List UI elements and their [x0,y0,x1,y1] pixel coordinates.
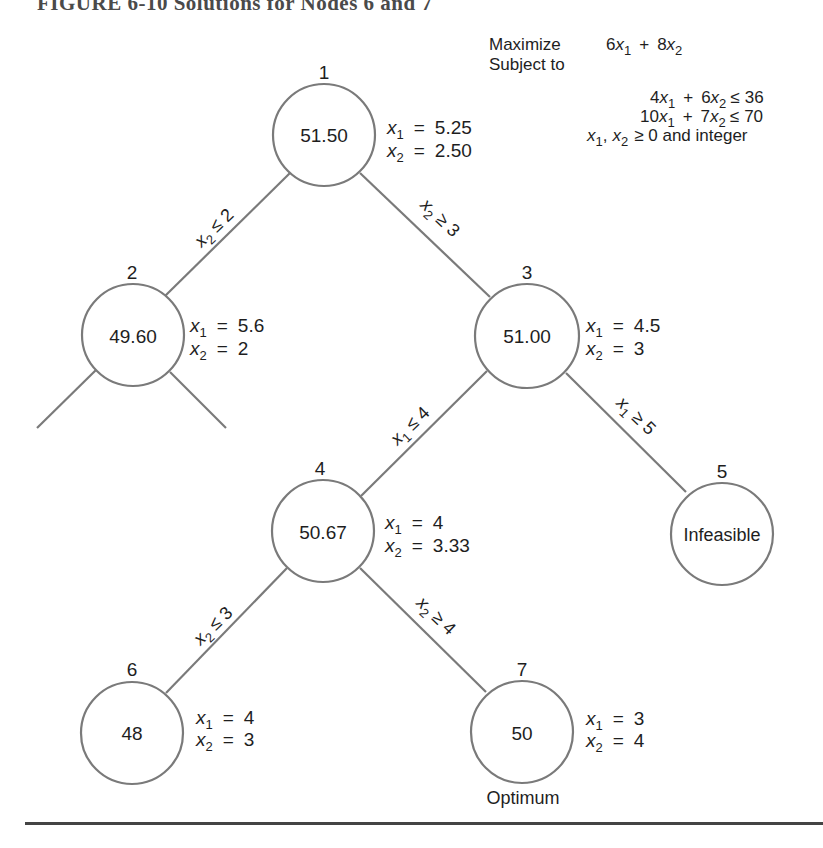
node-solution-x2: x2=2.50 [386,140,472,165]
node-4: 4 50.67 x1=4 x2=3.33 [272,458,470,582]
node-solution-x1: x1=5.6 [189,315,264,340]
node-solution-x2: x2=3.33 [384,535,470,560]
edge-label-1-3: x2≥3 [413,194,464,244]
node-solution-x2: x2=2 [189,338,248,363]
subject-to-label: Subject to [489,55,565,74]
node-id: 2 [127,262,138,283]
model-formulation: Maximize Subject to 6x1+8x2 4x1+6x2≤36 1… [489,35,764,149]
edges [37,173,686,693]
node-value: Infeasible [683,525,760,545]
node-3: 3 51.00 x1=4.5 x2=3 [475,262,660,388]
node-id: 1 [319,62,330,83]
edge-4-7 [360,568,486,692]
node-id: 6 [127,659,138,680]
node-solution-x2: x2=3 [585,338,644,363]
svg-text:x2≥3: x2≥3 [413,194,464,244]
node-7: 7 50 x1=3 x2=4 Optimum [471,659,645,808]
node-2: 2 49.60 x1=5.6 x2=2 [82,262,264,386]
node-6: 6 48 x1=4 x2=3 [81,659,255,784]
node-solution-x1: x1=5.25 [386,117,472,142]
nonnegativity-constraint: x1,x2≥ 0 and integer [586,126,748,149]
node-value: 51.50 [300,125,348,146]
node-solution-x2: x2=4 [585,730,645,755]
branch-and-bound-tree: x2≤2 x2≥3 x1≤4 x1≥5 x2≤3 x2≥4 1 51.50 x1… [0,0,823,848]
edge-label-4-7: x2≥4 [409,592,460,642]
node-1: 1 51.50 x1=5.25 x2=2.50 [273,62,472,186]
edge-2-left-stub [37,370,96,428]
node-value: 49.60 [109,326,157,347]
objective-function: 6x1+8x2 [606,35,682,58]
edge-3-4 [361,371,487,496]
node-solution-x1: x1=4.5 [585,315,660,340]
svg-text:x2≥4: x2≥4 [409,592,460,642]
node-id: 4 [315,458,326,479]
edge-3-5 [566,373,686,492]
node-id: 3 [522,262,533,283]
svg-text:x1≥5: x1≥5 [609,392,660,442]
node-value: 50 [511,723,532,744]
edge-2-right-stub [170,372,226,428]
bottom-rule [25,822,823,825]
optimum-label: Optimum [486,788,559,808]
node-value: 50.67 [299,522,347,543]
node-id: 5 [717,461,728,482]
edge-4-6 [166,568,287,693]
node-solution-x2: x2=3 [195,729,254,754]
node-value: 51.00 [503,326,551,347]
node-value: 48 [121,723,142,744]
edge-1-2 [165,173,290,296]
maximize-label: Maximize [489,35,561,54]
node-id: 7 [517,659,528,680]
edge-label-3-5: x1≥5 [609,392,660,442]
edge-1-3 [360,173,490,297]
node-5: 5 Infeasible [671,461,773,585]
node-solution-x1: x1=4 [384,512,444,537]
